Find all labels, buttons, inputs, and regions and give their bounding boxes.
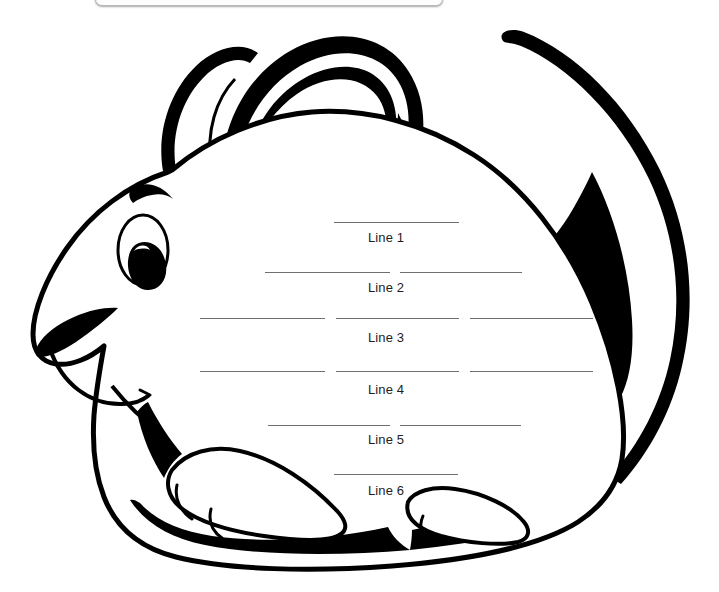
write-rule-4-2[interactable] <box>336 371 459 372</box>
line-label-5: Line 5 <box>368 432 404 447</box>
write-rule-6-1[interactable] <box>334 474 458 475</box>
mouse-illustration <box>0 0 719 592</box>
write-rule-5-2[interactable] <box>400 425 521 426</box>
write-rule-2-1[interactable] <box>265 272 390 273</box>
line-label-4: Line 4 <box>368 382 404 397</box>
write-rule-3-2[interactable] <box>336 318 459 319</box>
write-rule-4-1[interactable] <box>200 371 325 372</box>
line-label-1: Line 1 <box>368 230 404 245</box>
write-rule-3-1[interactable] <box>200 318 325 319</box>
write-rule-3-3[interactable] <box>470 318 593 319</box>
write-rule-1-1[interactable] <box>334 222 459 223</box>
write-rule-4-3[interactable] <box>470 371 593 372</box>
worksheet-page: Line 1Line 2Line 3Line 4Line 5Line 6 <box>0 0 719 592</box>
line-label-2: Line 2 <box>368 280 404 295</box>
write-rule-5-1[interactable] <box>268 425 390 426</box>
line-label-6: Line 6 <box>368 483 404 498</box>
line-label-3: Line 3 <box>368 330 404 345</box>
write-rule-2-2[interactable] <box>400 272 522 273</box>
